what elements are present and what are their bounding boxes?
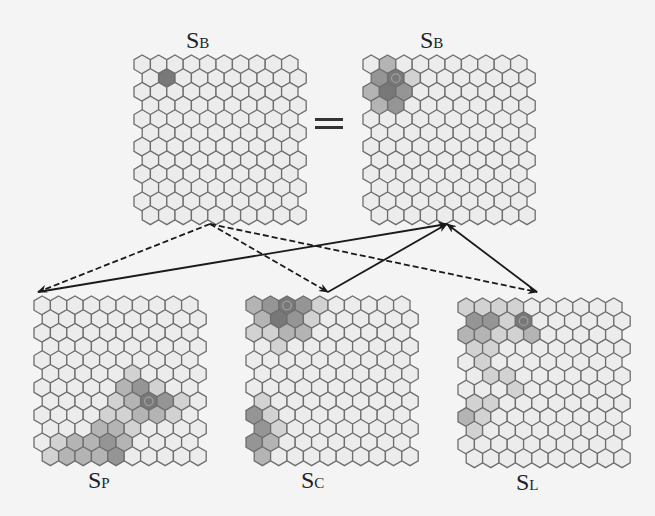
solid-arrow [447,224,537,292]
dashed-arrow [38,224,210,292]
dashed-arrow [210,224,537,292]
dashed-arrow [210,224,328,292]
solid-arrow [38,224,447,292]
arrows-layer [0,0,655,516]
